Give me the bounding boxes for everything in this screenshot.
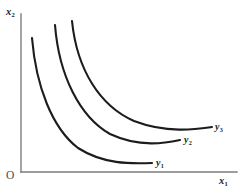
curve-label-y2: y2 [184,135,192,145]
isoquant-curve-y1 [32,38,152,163]
curve-label-y2-base: y [184,134,188,145]
x-axis-label: x1 [219,176,228,187]
isoquant-curve-y3 [72,21,212,130]
curve-label-y1: y1 [156,158,164,168]
curve-label-y3: y3 [215,122,223,132]
x-axis-label-base: x [219,175,224,186]
y-axis-label-subscript: 2 [12,11,15,18]
curve-label-y1-subscript: 1 [161,162,164,169]
curve-label-y3-subscript: 3 [220,126,223,133]
plot-area [0,0,238,190]
curve-label-y3-base: y [215,121,219,132]
curve-label-y2-subscript: 2 [189,139,192,146]
y-axis-label-base: x [6,6,11,17]
y-axis-label: x2 [6,7,15,18]
curve-label-y1-base: y [156,157,160,168]
x-axis-label-subscript: 1 [225,180,228,187]
isoquant-figure: x2 x1 O y1 y2 y3 [0,0,238,190]
isoquant-curve-y2 [55,25,180,143]
origin-label: O [6,170,14,182]
